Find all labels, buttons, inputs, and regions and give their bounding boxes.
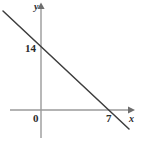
y-axis-arrowhead <box>37 3 44 10</box>
coordinate-plane-svg <box>0 0 145 141</box>
y-axis-label: y <box>34 2 38 12</box>
x-axis-label: x <box>129 114 134 124</box>
graph-figure: y x 14 7 0 <box>0 0 145 141</box>
origin-label: 0 <box>33 113 39 124</box>
x-intercept-label: 7 <box>106 113 112 124</box>
y-intercept-label: 14 <box>25 43 36 54</box>
